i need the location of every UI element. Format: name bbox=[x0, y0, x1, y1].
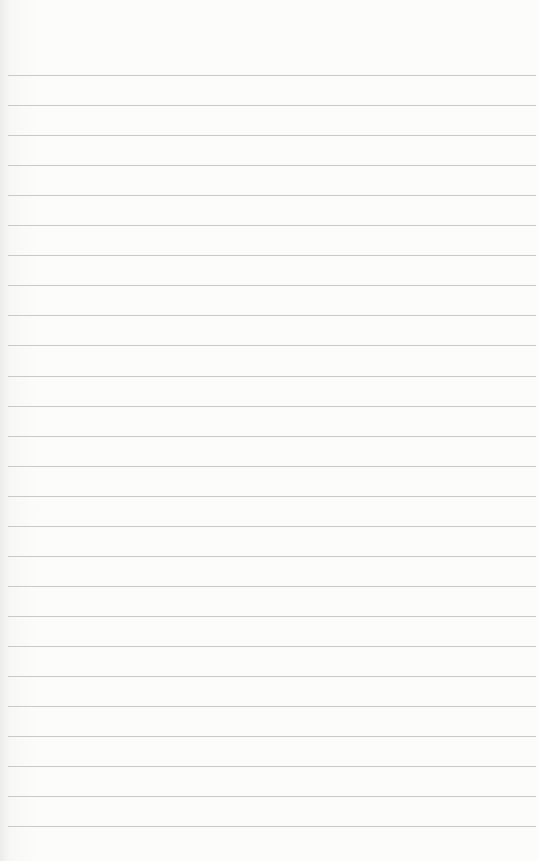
ruled-line bbox=[8, 646, 536, 647]
ruled-line bbox=[8, 766, 536, 767]
ruled-line bbox=[8, 676, 536, 677]
lined-paper bbox=[0, 0, 538, 861]
ruled-line bbox=[8, 195, 536, 196]
ruled-line bbox=[8, 285, 536, 286]
ruled-line bbox=[8, 225, 536, 226]
ruled-line bbox=[8, 796, 536, 797]
ruled-line bbox=[8, 376, 536, 377]
ruled-line bbox=[8, 556, 536, 557]
ruled-line bbox=[8, 466, 536, 467]
ruled-line bbox=[8, 706, 536, 707]
ruled-line bbox=[8, 826, 536, 827]
ruled-line bbox=[8, 436, 536, 437]
ruled-line bbox=[8, 315, 536, 316]
ruled-line bbox=[8, 616, 536, 617]
ruled-line bbox=[8, 165, 536, 166]
ruled-line bbox=[8, 255, 536, 256]
ruled-line bbox=[8, 75, 536, 76]
ruled-line bbox=[8, 105, 536, 106]
ruled-line bbox=[8, 135, 536, 136]
ruled-line bbox=[8, 406, 536, 407]
ruled-line bbox=[8, 496, 536, 497]
ruled-line bbox=[8, 586, 536, 587]
ruled-line bbox=[8, 345, 536, 346]
ruled-line bbox=[8, 736, 536, 737]
ruled-line bbox=[8, 526, 536, 527]
